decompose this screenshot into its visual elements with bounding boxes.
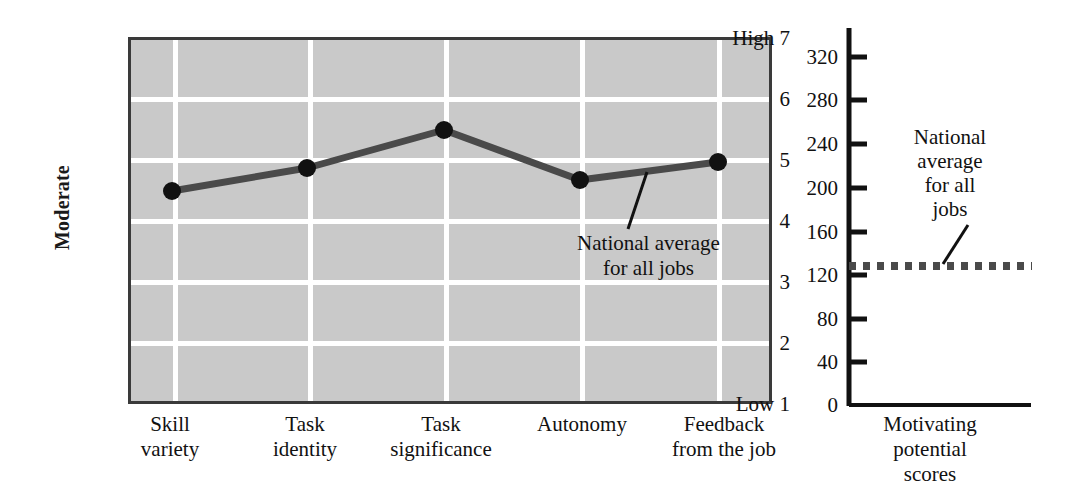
annotation-line2: average — [885, 149, 1015, 173]
annotation-leader-line — [628, 172, 647, 229]
annotation-leader-line — [943, 225, 968, 264]
annotation-line2: for all jobs — [531, 256, 766, 281]
data-point-feedback — [709, 153, 727, 171]
annotation-line3: for all — [885, 173, 1015, 197]
data-point-autonomy — [571, 171, 589, 189]
motivating-potential-score-chart: 320 280 240 200 160 120 80 40 0 National… — [790, 0, 1076, 503]
job-characteristics-line-chart: High 7 6 5 4 3 2 Low 1 Moderate Skill va… — [0, 0, 790, 503]
ytick-label-280: 280 — [790, 90, 838, 111]
ytick-label-240: 240 — [790, 134, 838, 155]
ytick-label-160: 160 — [790, 222, 838, 243]
xtick-line1: Motivating — [830, 412, 1030, 437]
ytick-label-200: 200 — [790, 178, 838, 199]
ytick-label-120: 120 — [790, 265, 838, 286]
annotation-line1: National average — [531, 231, 766, 256]
xtick-label-motivating-potential-scores: Motivating potential scores — [830, 412, 1030, 487]
data-point-skill-variety — [163, 182, 181, 200]
data-point-task-identity — [298, 159, 316, 177]
annotation-national-average: National average for all jobs — [885, 125, 1015, 221]
ytick-label-320: 320 — [790, 47, 838, 68]
annotation-line4: jobs — [885, 197, 1015, 221]
annotation-national-average: National average for all jobs — [531, 231, 766, 281]
xtick-line2: potential — [830, 437, 1030, 462]
xtick-line3: scores — [830, 462, 1030, 487]
figure-container: High 7 6 5 4 3 2 Low 1 Moderate Skill va… — [0, 0, 1076, 503]
data-line — [172, 130, 718, 191]
annotation-line1: National — [885, 125, 1015, 149]
data-point-task-significance — [435, 121, 453, 139]
ytick-label-80: 80 — [790, 309, 838, 330]
ytick-label-40: 40 — [790, 352, 838, 373]
